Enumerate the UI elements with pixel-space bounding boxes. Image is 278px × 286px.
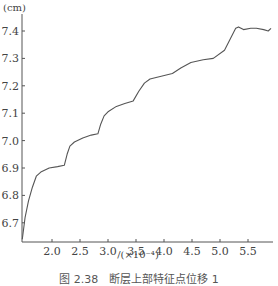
x-tick-label: 3.0 xyxy=(99,245,117,258)
y-tick-label: 7.4 xyxy=(2,25,20,38)
y-tick-label: 7.1 xyxy=(2,107,20,120)
y-tick-label: 7.3 xyxy=(2,52,20,65)
y-tick-label: 7.2 xyxy=(2,80,20,93)
x-tick-label: 2.5 xyxy=(71,245,89,258)
y-tick-label: 6.9 xyxy=(2,162,20,175)
x-tick-label: 5.5 xyxy=(239,245,257,258)
y-tick-label: 6.7 xyxy=(2,217,20,230)
x-tick-label: 5.0 xyxy=(211,245,229,258)
x-axis-label: /(×10⁻⁴) xyxy=(117,249,159,260)
y-tick-label: 7.0 xyxy=(2,135,20,148)
line-chart: (cm) 6.76.86.97.07.17.27.37.4 2.02.53.03… xyxy=(0,0,278,270)
y-axis-unit: (cm) xyxy=(3,2,26,13)
x-tick-label: 2.0 xyxy=(43,245,61,258)
x-tick-label: 4.5 xyxy=(183,245,201,258)
displacement-line xyxy=(22,27,271,239)
y-ticks: 6.76.86.97.07.17.27.37.4 xyxy=(2,25,26,230)
y-tick-label: 6.8 xyxy=(2,189,20,202)
figure-caption: 图 2.38 断层上部特征点位移 1 xyxy=(0,270,278,286)
